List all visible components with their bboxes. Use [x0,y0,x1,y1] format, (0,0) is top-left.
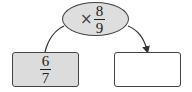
curve-from-input [45,26,64,52]
input-numerator: 6 [42,54,50,68]
multiply-sign: × [80,10,93,28]
arrow-to-output [128,26,147,50]
input-fraction: 6 7 [40,54,51,85]
output-answer-box[interactable] [114,52,181,87]
operator-denominator: 9 [96,21,104,35]
input-denominator: 7 [42,71,50,85]
operator-fraction: 8 9 [94,4,105,35]
operator-numerator: 8 [96,4,104,18]
